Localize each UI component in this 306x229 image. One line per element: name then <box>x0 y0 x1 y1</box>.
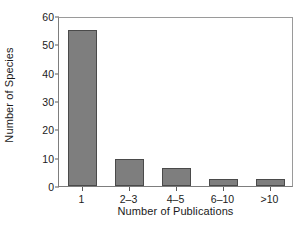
y-axis-tick-label: 40 <box>42 68 54 80</box>
bar <box>68 30 97 186</box>
x-axis-tick-mark <box>176 187 177 191</box>
x-axis-tick-mark <box>223 187 224 191</box>
y-axis-tick-label: 10 <box>42 153 54 165</box>
bar <box>115 159 144 186</box>
x-axis-title: Number of Publications <box>58 205 293 217</box>
bar <box>209 179 238 186</box>
bar-slot <box>153 18 200 186</box>
x-axis-tick-label: 6–10 <box>211 193 234 205</box>
x-axis-tick-label: 4–5 <box>167 193 185 205</box>
x-axis-tick-label: >10 <box>261 193 279 205</box>
y-axis-tick-label: 20 <box>42 124 54 136</box>
y-axis-tick-label: 60 <box>42 11 54 23</box>
x-axis-tick-mark <box>129 187 130 191</box>
bar-slot <box>200 18 247 186</box>
y-axis-tick-label: 0 <box>48 181 54 193</box>
x-axis-tick-mark <box>82 187 83 191</box>
y-axis-ticks: 0102030405060 <box>20 0 54 229</box>
y-axis-tick-label: 50 <box>42 39 54 51</box>
plot-area <box>58 17 293 187</box>
bar-slot <box>106 18 153 186</box>
bar-series <box>59 18 292 186</box>
bar <box>256 179 285 186</box>
bar-slot <box>247 18 294 186</box>
x-axis-tick-label: 2–3 <box>120 193 138 205</box>
y-axis-title: Number of Species <box>0 0 18 190</box>
bar-chart-figure: Number of Species 0102030405060 12–34–56… <box>0 0 306 229</box>
y-axis-title-text: Number of Species <box>3 47 15 142</box>
bar <box>162 168 191 186</box>
bar-slot <box>59 18 106 186</box>
x-axis-tick-mark <box>270 187 271 191</box>
x-axis-tick-label: 1 <box>79 193 85 205</box>
y-axis-tick-label: 30 <box>42 96 54 108</box>
